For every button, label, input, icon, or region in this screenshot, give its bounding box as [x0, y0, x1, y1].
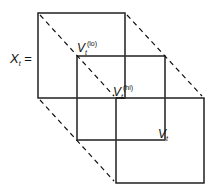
v-subscript: t — [121, 93, 123, 100]
v-symbol: V — [77, 41, 85, 55]
x-symbol: X — [10, 51, 19, 66]
v-superscript: (lo) — [87, 40, 97, 47]
diagram-canvas: Xt = Vt(lo) Vt(hi) Vt — [0, 0, 215, 192]
v-hi-label: Vt(hi) — [113, 86, 133, 98]
v-lo-label: Vt(lo) — [77, 42, 97, 54]
v-symbol: V — [113, 85, 121, 99]
tensor-decomposition-figure — [0, 0, 215, 192]
v-subscript: t — [85, 49, 87, 56]
v-label: Vt — [158, 128, 168, 140]
equation-lhs-label: Xt = — [10, 52, 32, 65]
v-superscript: (hi) — [123, 84, 133, 91]
x-subscript: t — [19, 60, 21, 67]
v-subscript: t — [166, 135, 168, 142]
v-symbol: V — [158, 127, 166, 141]
equals-sign: = — [21, 51, 32, 66]
